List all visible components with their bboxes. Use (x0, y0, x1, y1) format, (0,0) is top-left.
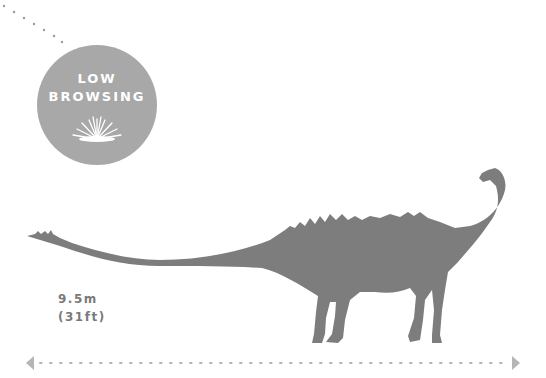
scale-bar (0, 0, 546, 378)
arrow-left-icon (26, 356, 34, 370)
arrow-right-icon (512, 356, 520, 370)
dinosaur-infographic: LOW BROWSING 9.5m (31ft) (0, 0, 546, 378)
